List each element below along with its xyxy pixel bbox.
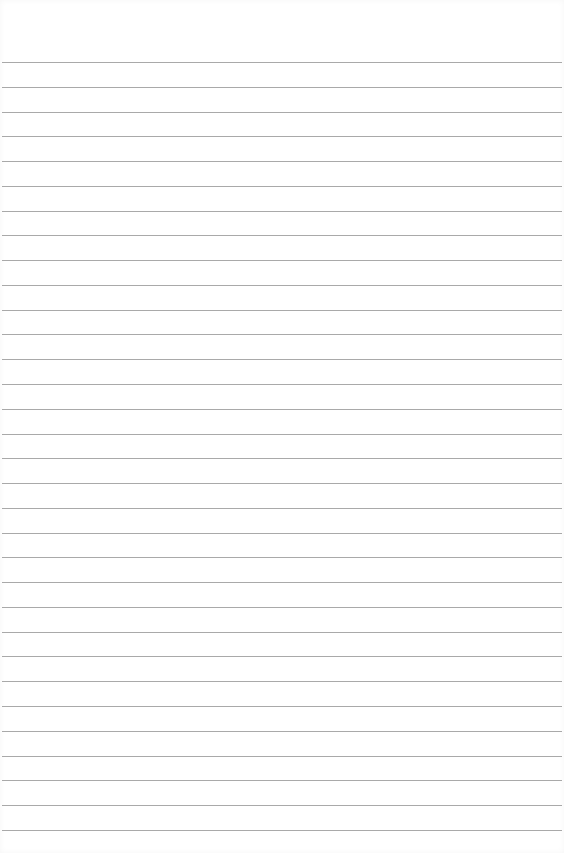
ruled-line xyxy=(2,161,562,162)
ruled-line xyxy=(2,334,562,335)
ruled-line xyxy=(2,731,562,732)
ruled-line xyxy=(2,533,562,534)
ruled-line xyxy=(2,186,562,187)
ruled-line xyxy=(2,62,562,63)
ruled-line xyxy=(2,756,562,757)
lined-paper xyxy=(0,0,564,853)
ruled-line xyxy=(2,607,562,608)
ruled-line xyxy=(2,656,562,657)
ruled-line xyxy=(2,359,562,360)
ruled-line xyxy=(2,681,562,682)
ruled-line xyxy=(2,557,562,558)
ruled-line xyxy=(2,458,562,459)
ruled-line xyxy=(2,87,562,88)
ruled-line xyxy=(2,384,562,385)
ruled-line xyxy=(2,508,562,509)
ruled-line xyxy=(2,136,562,137)
ruled-line xyxy=(2,112,562,113)
ruled-line xyxy=(2,260,562,261)
ruled-line xyxy=(2,310,562,311)
ruled-line xyxy=(2,780,562,781)
ruled-line xyxy=(2,830,562,831)
ruled-line xyxy=(2,483,562,484)
ruled-line xyxy=(2,235,562,236)
ruled-line xyxy=(2,211,562,212)
ruled-line xyxy=(2,582,562,583)
ruled-line xyxy=(2,805,562,806)
ruled-line xyxy=(2,632,562,633)
ruled-line xyxy=(2,409,562,410)
ruled-line xyxy=(2,706,562,707)
ruled-line xyxy=(2,434,562,435)
ruled-line xyxy=(2,285,562,286)
